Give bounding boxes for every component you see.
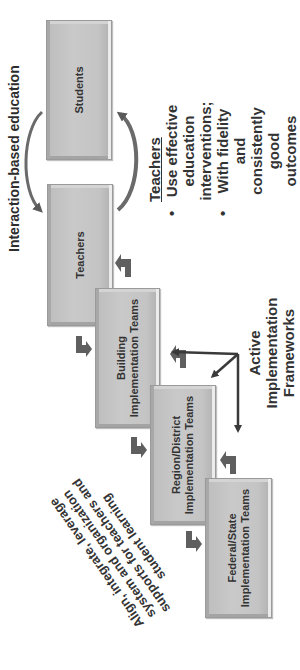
teachers-note: Teachers Use effective education interve…	[146, 98, 299, 216]
box-students: Students	[46, 20, 112, 160]
cycle-label: Interaction-based education	[6, 65, 22, 252]
box-federal-state-teams-label: Federal/State Implementation Teams	[226, 489, 252, 607]
teachers-note-bullet: With fidelity and consistently good outc…	[214, 98, 299, 216]
box-region-district-teams-label: Region/District Implementation Teams	[170, 396, 196, 514]
bent-block-arrow-icon	[186, 531, 202, 552]
curved-arrow-icon	[118, 114, 136, 210]
box-federal-state-teams: Federal/State Implementation Teams	[205, 478, 272, 618]
frameworks-label: Active Implementation Frameworks	[246, 288, 297, 418]
box-teachers-label: Teachers	[74, 231, 87, 279]
bent-block-arrow-icon	[115, 254, 131, 277]
bent-block-arrow-icon	[131, 437, 147, 458]
teachers-note-bullet: Use effective education interventions;	[163, 98, 214, 216]
bent-block-arrow-icon	[170, 345, 186, 368]
teachers-note-title: Teachers	[146, 98, 163, 216]
curved-arrow-icon	[26, 112, 42, 210]
bent-block-arrow-icon	[76, 336, 92, 357]
box-building-teams-label: Building Implementation Teams	[115, 299, 141, 417]
bent-block-arrow-icon	[220, 451, 236, 474]
teachers-note-bullets: Use effective education interventions; W…	[163, 98, 299, 216]
box-students-label: Students	[73, 66, 86, 113]
